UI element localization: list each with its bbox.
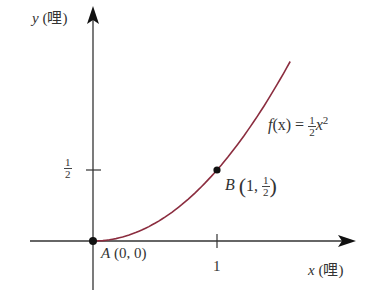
x-tick-label: 1 (213, 258, 221, 275)
y-axis-label: y (哩) (32, 6, 67, 27)
point-b-label: B (1, 1 2 ) (225, 173, 277, 199)
y-tick-fraction: 1 2 (64, 157, 72, 180)
point-b-fraction: 1 2 (262, 175, 270, 198)
function-fraction: 1 2 (308, 115, 316, 138)
x-axis-var: x (308, 262, 315, 278)
x-axis-unit: (哩) (318, 262, 343, 278)
y-axis-unit: (哩) (42, 10, 67, 26)
point-b-marker (213, 166, 220, 173)
y-tick-label: 1 2 (64, 157, 72, 180)
point-a-marker (89, 237, 97, 245)
function-label: f(x) = 1 2 x2 (268, 114, 328, 138)
y-axis-var: y (32, 10, 39, 26)
point-a-label: A (0, 0) (101, 245, 146, 262)
parabola-curve (93, 62, 290, 242)
x-axis-label: x (哩) (308, 258, 343, 279)
